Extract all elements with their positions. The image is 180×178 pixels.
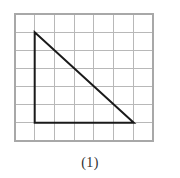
figure-caption-label: (1): [0, 148, 180, 178]
figure-root: (1): [0, 0, 180, 178]
grid-triangle-figure: [0, 0, 180, 148]
grid-figure-area: [0, 0, 180, 148]
